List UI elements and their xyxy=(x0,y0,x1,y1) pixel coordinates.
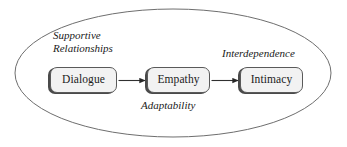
node-dialogue-label: Dialogue xyxy=(62,74,105,86)
node-intimacy-label: Intimacy xyxy=(251,74,293,86)
annotation-supportive-relationships-line1: Supportive xyxy=(53,29,113,42)
annotation-supportive-relationships: Supportive Relationships xyxy=(53,29,113,56)
diagram-canvas: Dialogue Empathy Intimacy Supportive Rel… xyxy=(0,0,347,147)
node-empathy[interactable]: Empathy xyxy=(147,67,210,93)
annotation-interdependence: Interdependence xyxy=(222,47,295,60)
node-empathy-label: Empathy xyxy=(157,74,199,86)
node-intimacy[interactable]: Intimacy xyxy=(240,67,303,93)
annotation-adaptability: Adaptability xyxy=(141,99,195,112)
node-dialogue[interactable]: Dialogue xyxy=(50,67,117,93)
annotation-supportive-relationships-line2: Relationships xyxy=(53,42,113,55)
